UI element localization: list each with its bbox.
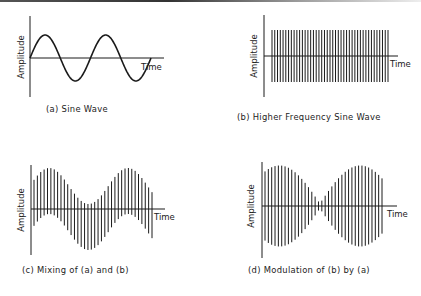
panel-c: Time Amplitude (c) Mixing of (a) and (b) [16, 165, 175, 275]
x-axis-label: Time [140, 62, 162, 72]
x-axis-label: Time [386, 209, 408, 219]
x-axis-label: Time [153, 212, 175, 222]
panel-d: Time Amplitude (d) Modulation of (b) by … [246, 162, 408, 275]
caption-c: (c) Mixing of (a) and (b) [22, 265, 129, 275]
panel-b: Time Amplitude (b) Higher Frequency Sine… [237, 15, 411, 122]
y-axis-label: Amplitude [246, 184, 256, 228]
y-axis-label: Amplitude [16, 35, 26, 79]
x-axis-label: Time [389, 59, 411, 69]
caption-b: (b) Higher Frequency Sine Wave [237, 112, 381, 122]
caption-d: (d) Modulation of (b) by (a) [248, 265, 370, 275]
figure: Time Amplitude (a) Sine Wave Time Amplit… [0, 0, 421, 296]
caption-a: (a) Sine Wave [46, 104, 108, 114]
panel-a: Time Amplitude (a) Sine Wave [16, 16, 164, 114]
y-axis-label: Amplitude [16, 188, 26, 232]
y-axis-label: Amplitude [249, 34, 259, 78]
